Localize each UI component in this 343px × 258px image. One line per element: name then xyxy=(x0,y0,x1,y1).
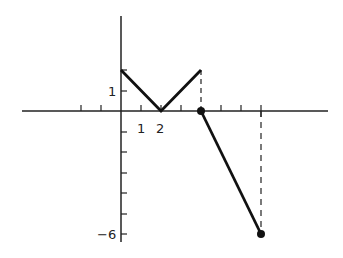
y-ticks xyxy=(121,70,127,234)
y-tick-label-neg6: −6 xyxy=(97,227,116,242)
v-segment xyxy=(121,70,201,111)
x-tick-label-1: 1 xyxy=(137,121,145,136)
filled-point-4-0 xyxy=(197,107,205,115)
filled-point-7-neg6 xyxy=(257,230,265,238)
y-tick-label-1: 1 xyxy=(108,84,116,99)
piecewise-graph: 1 2 1 −6 xyxy=(0,0,343,258)
descending-segment xyxy=(201,111,261,234)
x-tick-label-2: 2 xyxy=(156,121,164,136)
